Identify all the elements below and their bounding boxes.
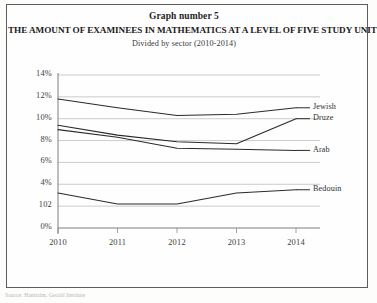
y-axis-tick-label: 6%	[18, 156, 52, 165]
x-axis-tick-label: 2011	[95, 238, 141, 247]
x-axis-tick-label: 2013	[214, 238, 260, 247]
y-axis-tick-label: 102	[18, 200, 52, 209]
series-line-arab	[58, 130, 296, 151]
y-axis-tick-label: 0%	[18, 222, 52, 231]
series-line-druze	[58, 119, 296, 144]
y-axis-tick-label: 14%	[18, 69, 52, 78]
y-axis-tick-label: 8%	[18, 135, 52, 144]
line-chart: 14%12%10%8%6%4%1020%20102011201220132014…	[0, 0, 377, 303]
series-label-jewish: Jewish	[313, 102, 336, 111]
y-axis-tick-label: 4%	[18, 178, 52, 187]
series-label-arab: Arab	[313, 145, 330, 154]
series-label-bedouin: Bedouin	[313, 184, 341, 193]
series-line-bedouin	[58, 190, 296, 204]
series-line-jewish	[58, 99, 296, 115]
scanned-page: Graph number 5 THE AMOUNT OF EXAMINEES I…	[0, 0, 377, 303]
x-axis-tick-label: 2014	[273, 238, 319, 247]
source-note: Source: Hanitzim, Gerald Institute	[5, 292, 85, 298]
x-axis-tick-label: 2012	[154, 238, 200, 247]
x-axis-tick-label: 2010	[35, 238, 81, 247]
y-axis-tick-label: 12%	[18, 91, 52, 100]
y-axis-tick-label: 10%	[18, 113, 52, 122]
series-label-druze: Druze	[313, 113, 334, 122]
